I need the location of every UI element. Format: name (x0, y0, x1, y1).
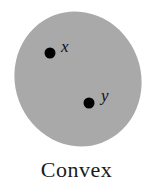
convex-set-shape (0, 0, 153, 164)
point-x (45, 48, 56, 59)
figure-caption: Convex (0, 157, 153, 183)
point-x-label: x (60, 37, 69, 56)
point-y-label: y (99, 86, 109, 105)
point-y (84, 98, 95, 109)
